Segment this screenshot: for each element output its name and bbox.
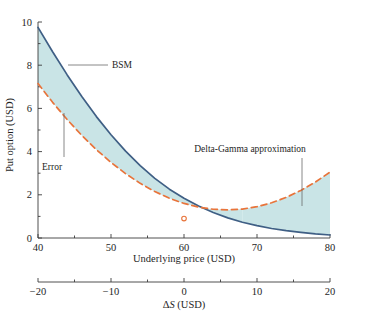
y-tick-label: 10 [22, 17, 33, 28]
secondary-axis-title: ΔS (USD) [163, 299, 206, 311]
bsm-label: BSM [112, 60, 133, 70]
secondary-tick-label: 10 [252, 286, 263, 297]
secondary-tick-label: −10 [103, 286, 119, 297]
delta-gamma-label: Delta-Gamma approximation [194, 144, 306, 154]
put-option-delta-gamma-chart: 0246810 4050607080 BSM Error Delta-Gamma… [0, 0, 391, 313]
secondary-tick-label: −20 [30, 286, 46, 297]
figure-background [0, 0, 391, 313]
secondary-tick-label: 20 [325, 286, 336, 297]
y-tick-label: 8 [27, 60, 32, 71]
x-axis-title: Underlying price (USD) [133, 253, 236, 265]
x-tick-label: 70 [252, 242, 263, 253]
y-tick-label: 4 [27, 146, 33, 157]
y-axis-title: Put option (USD) [4, 97, 16, 172]
chart-figure: 0246810 4050607080 BSM Error Delta-Gamma… [0, 0, 391, 313]
error-label: Error [42, 162, 63, 172]
y-tick-label: 2 [27, 189, 32, 200]
y-tick-label: 0 [27, 233, 32, 244]
x-tick-label: 60 [179, 242, 190, 253]
secondary-tick-label: 0 [181, 286, 186, 297]
units-text: (USD) [175, 299, 206, 311]
x-tick-label: 50 [106, 242, 117, 253]
x-tick-label: 40 [33, 242, 44, 253]
x-tick-label: 80 [325, 242, 336, 253]
y-tick-label: 6 [27, 103, 32, 114]
